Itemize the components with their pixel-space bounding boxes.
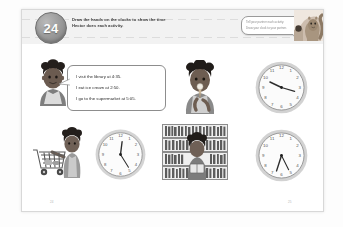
speech-line-2: I eat ice cream at 2:50. xyxy=(68,82,165,93)
worksheet-page: 24 Draw the hands on the clocks to show … xyxy=(0,0,343,227)
instruction-line-2: Hector does each activity. xyxy=(72,23,252,29)
svg-text:12: 12 xyxy=(279,133,284,138)
svg-text:10: 10 xyxy=(263,75,268,80)
speech-line-1: I visit the library at 4:35. xyxy=(68,71,165,82)
header-dotted-rule-bottom xyxy=(22,37,323,38)
unit-number-badge: 24 xyxy=(35,12,67,44)
figure-supermarket-cart xyxy=(28,126,90,178)
speech-line-3: I go to the supermarket at 5:05. xyxy=(68,93,165,104)
figure-ice-cream-boy xyxy=(178,60,222,114)
worksheet-header: 24 Draw the hands on the clocks to show … xyxy=(22,10,323,45)
clock-top-right[interactable]: 1212 345 678 91011 xyxy=(254,60,309,119)
clock-bottom-left[interactable]: 1212 345 678 91011 xyxy=(94,128,147,185)
speech-bubble: I visit the library at 4:35. I eat ice c… xyxy=(67,65,166,111)
svg-text:11: 11 xyxy=(270,136,275,141)
instruction-text: Draw the hands on the clocks to show the… xyxy=(72,17,252,30)
svg-text:10: 10 xyxy=(103,142,108,147)
worksheet-content: I visit the library at 4:35. I eat ice c… xyxy=(22,44,323,211)
page-marker-right: 25 xyxy=(288,200,291,204)
svg-text:11: 11 xyxy=(270,68,275,73)
clock-bottom-right[interactable]: 1212 345 678 91011 xyxy=(254,128,309,187)
squirrel-mascot-icon xyxy=(294,9,324,41)
svg-text:12: 12 xyxy=(279,65,284,70)
figure-library-shelves xyxy=(162,124,228,180)
svg-text:11: 11 xyxy=(109,136,114,141)
unit-number-label: 24 xyxy=(43,21,58,36)
svg-text:12: 12 xyxy=(118,133,123,138)
worksheet-sheet: 24 Draw the hands on the clocks to show … xyxy=(21,9,324,212)
svg-text:10: 10 xyxy=(263,143,268,148)
page-marker-left: 24 xyxy=(50,200,53,204)
